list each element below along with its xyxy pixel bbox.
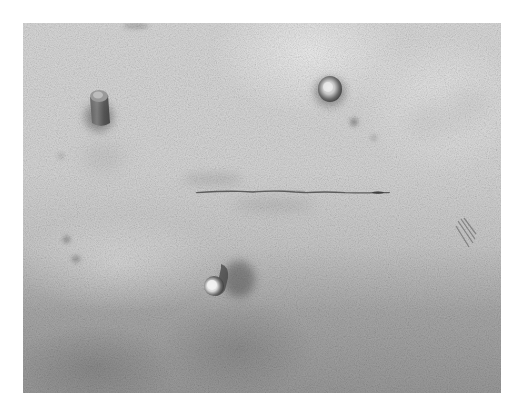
protrusion-upper-left (83, 85, 119, 133)
skin-spot (72, 256, 80, 262)
skin-spot (58, 153, 64, 159)
protrusion-lower-center (195, 258, 239, 302)
dark-patch-right (453, 215, 479, 251)
skin-fold-shadow (83, 143, 123, 173)
skin-spot (63, 236, 70, 243)
protrusion-upper-right (313, 73, 347, 107)
skin-spot (350, 118, 358, 126)
incision-shadow-lower (233, 198, 313, 212)
skin-spot (123, 23, 149, 29)
skin-spot (371, 135, 377, 141)
incision-shadow (183, 173, 243, 185)
incision-line (195, 189, 391, 195)
skin-photograph (23, 23, 501, 393)
